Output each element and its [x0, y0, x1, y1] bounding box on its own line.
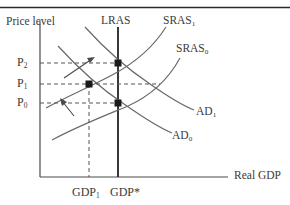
sras1-label: SRAS1	[163, 15, 195, 27]
ad1-label-text: AD	[196, 105, 213, 117]
output-tick-gdp1-text: GDP	[72, 185, 96, 199]
output-tick-gdp1-sub: 1	[96, 191, 100, 200]
price-tick-p0-sub: 0	[24, 101, 28, 110]
figure-canvas: Price level Real GDP LRAS SRAS1 SRAS0 AD…	[0, 0, 290, 205]
sras1-curve	[46, 27, 166, 108]
output-tick-gdpstar: GDP*	[110, 186, 140, 198]
ad1-label-sub: 1	[213, 111, 217, 119]
ad1-curve	[85, 27, 194, 110]
sras0-label: SRAS0	[176, 43, 208, 55]
x-axis-label: Real GDP	[234, 170, 281, 182]
price-tick-p0: P0	[17, 96, 27, 108]
price-tick-p0-text: P	[17, 95, 24, 109]
equilibrium-point-e0	[115, 100, 122, 107]
equilibrium-point-e2	[115, 60, 122, 67]
price-tick-p1: P1	[17, 77, 27, 89]
lras-label-text: LRAS	[101, 14, 130, 26]
sras1-label-text: SRAS	[163, 14, 192, 26]
ad0-label: AD0	[172, 130, 192, 142]
output-tick-gdpstar-text: GDP*	[110, 185, 140, 199]
y-axis-label: Price level	[6, 16, 55, 28]
output-tick-gdp1: GDP1	[72, 186, 100, 198]
sras1-label-sub: 1	[192, 20, 196, 28]
equilibrium-point-e1	[86, 81, 93, 88]
price-tick-p2-text: P	[17, 55, 24, 69]
sras0-label-sub: 0	[205, 48, 209, 56]
sras-shift-arrow	[64, 57, 95, 78]
ad0-label-sub: 0	[189, 135, 193, 143]
lras-label: LRAS	[101, 15, 130, 27]
price-tick-p2: P2	[17, 56, 27, 68]
price-tick-p2-sub: 2	[24, 61, 28, 70]
price-tick-p1-text: P	[17, 76, 24, 90]
sras0-label-text: SRAS	[176, 42, 205, 54]
price-tick-p1-sub: 1	[24, 82, 28, 91]
ad-shift-arrow	[60, 98, 74, 116]
ad0-label-text: AD	[172, 129, 189, 141]
ad1-label: AD1	[196, 106, 216, 118]
